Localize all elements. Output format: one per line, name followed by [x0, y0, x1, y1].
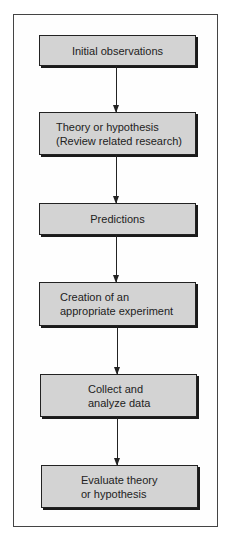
step-creation-of-experiment: Creation of an appropriate experiment — [39, 282, 196, 326]
step-label-line1: Collect and — [88, 382, 150, 396]
step-predictions: Predictions — [39, 203, 196, 235]
step-theory-or-hypothesis: Theory or hypothesis (Review related res… — [39, 112, 196, 155]
step-label: Initial observations — [72, 44, 163, 58]
step-label-line2: or hypothesis — [81, 487, 157, 501]
step-label-line1: Theory or hypothesis — [56, 120, 182, 134]
step-label-line1: Evaluate theory — [81, 473, 157, 487]
step-collect-and-analyze-data: Collect and analyze data — [40, 374, 197, 417]
step-initial-observations: Initial observations — [39, 35, 196, 66]
arrow-4-to-5 — [117, 326, 118, 374]
step-label-line2: (Review related research) — [56, 134, 182, 148]
step-label-line2: appropriate experiment — [60, 304, 173, 318]
arrow-5-to-6 — [117, 417, 118, 465]
step-label-line2: analyze data — [88, 396, 150, 410]
arrow-1-to-2 — [116, 66, 117, 112]
arrow-3-to-4 — [116, 235, 117, 282]
arrow-2-to-3 — [116, 155, 117, 203]
step-label-line1: Creation of an — [60, 290, 173, 304]
step-label: Predictions — [90, 212, 144, 226]
step-evaluate-theory: Evaluate theory or hypothesis — [41, 465, 198, 508]
